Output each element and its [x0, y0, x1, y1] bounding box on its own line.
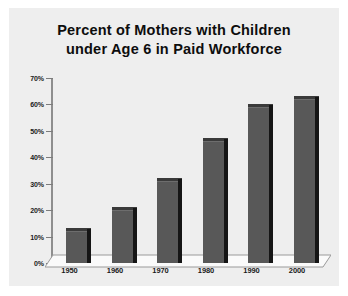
bar-front-face [112, 210, 133, 263]
bar-front-face [294, 99, 315, 263]
bar-side-face [87, 229, 91, 263]
bar-1990 [248, 104, 273, 263]
y-axis-label-20: 20% [30, 207, 44, 214]
y-axis-label-70: 70% [30, 75, 44, 82]
bar-front-face [66, 231, 87, 263]
y-axis-label-40: 40% [30, 154, 44, 161]
y-axis-tick [46, 78, 53, 79]
bar-side-face [315, 97, 319, 263]
y-axis-label-10: 10% [30, 233, 44, 240]
bar-side-face [133, 208, 137, 263]
bar-front-face [157, 181, 178, 263]
y-axis-tick [46, 104, 53, 105]
x-axis: 195019601970198019902000 [45, 266, 331, 280]
x-axis-label-1950: 1950 [61, 266, 77, 275]
bar-1970 [157, 178, 182, 263]
y-axis-tick [46, 157, 53, 158]
bar-2000 [294, 96, 319, 263]
x-axis-label-1960: 1960 [107, 266, 123, 275]
x-axis-label-1970: 1970 [152, 266, 168, 275]
y-axis-label-0: 0% [34, 260, 44, 267]
bar-side-face [224, 139, 228, 263]
y-axis-tick [46, 131, 53, 132]
bar-1950 [66, 228, 91, 263]
y-axis-tick [46, 210, 53, 211]
chart-title: Percent of Mothers with Children under A… [9, 21, 339, 59]
bars-layer [53, 78, 331, 263]
bar-side-face [269, 105, 273, 263]
bar-1980 [203, 138, 228, 263]
chart-figure: Percent of Mothers with Children under A… [9, 8, 339, 286]
y-axis-tick [46, 184, 53, 185]
chart-title-line-2: under Age 6 in Paid Workforce [9, 40, 339, 59]
y-axis-tick [46, 237, 53, 238]
chart-title-line-1: Percent of Mothers with Children [9, 21, 339, 40]
x-axis-label-1990: 1990 [243, 266, 259, 275]
bar-front-face [203, 141, 224, 263]
x-axis-label-1980: 1980 [198, 266, 214, 275]
bar-side-face [178, 179, 182, 263]
bar-1960 [112, 207, 137, 263]
plot-area: 70% 60% 50% 40% 30% 20% [45, 70, 331, 268]
y-axis-label-60: 60% [30, 101, 44, 108]
x-axis-label-2000: 2000 [289, 266, 305, 275]
y-axis-label-50: 50% [30, 127, 44, 134]
bar-front-face [248, 107, 269, 263]
y-axis-label-30: 30% [30, 180, 44, 187]
